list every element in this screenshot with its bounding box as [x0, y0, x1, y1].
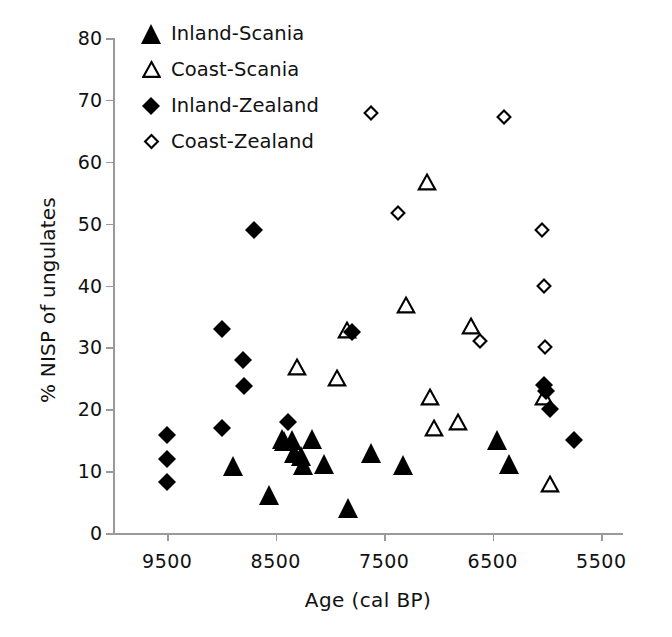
x-axis-tick: [276, 533, 278, 541]
legend-item-label: Inland-Zealand: [171, 94, 319, 117]
data-point-inland-zealand: [541, 400, 559, 418]
data-point-inland-scania: [361, 443, 381, 463]
x-axis-tick: [167, 533, 169, 541]
data-point-inland-zealand: [213, 419, 231, 437]
y-axis-tick-label: 40: [78, 275, 102, 297]
data-point-inland-zealand: [234, 351, 252, 369]
data-point-coast-zealand: [535, 277, 552, 294]
y-axis-tick-label: 60: [78, 151, 102, 173]
open-triangle-icon: [140, 59, 162, 81]
data-point-coast-scania: [425, 418, 444, 437]
open-diamond-icon: [140, 131, 162, 153]
x-axis-tick: [493, 533, 495, 541]
y-axis-line: [113, 38, 115, 533]
x-axis-line: [113, 533, 623, 535]
data-point-inland-scania: [499, 454, 519, 474]
legend-item: Inland-Scania: [140, 22, 319, 45]
x-axis-tick-label: 5500: [576, 550, 626, 572]
data-point-coast-scania: [449, 412, 468, 431]
y-axis-tick: [106, 347, 113, 349]
data-point-coast-scania: [417, 173, 436, 192]
y-axis-tick: [106, 409, 113, 411]
data-point-inland-zealand: [537, 382, 555, 400]
x-axis-tick: [384, 533, 386, 541]
y-axis-tick-label: 20: [78, 398, 102, 420]
data-point-coast-zealand: [495, 108, 512, 125]
scatter-chart-figure: % NISP of ungulates Age (cal BP) 0102030…: [0, 0, 672, 637]
data-point-inland-zealand: [279, 413, 297, 431]
data-point-coast-zealand: [533, 221, 550, 238]
legend-item-label: Coast-Scania: [171, 58, 299, 81]
y-axis-tick: [106, 100, 113, 102]
y-axis-tick: [106, 471, 113, 473]
data-point-coast-scania: [288, 358, 307, 377]
legend-item-label: Inland-Scania: [171, 22, 304, 45]
data-point-inland-scania: [302, 429, 322, 449]
x-axis-tick: [601, 533, 603, 541]
data-point-inland-scania: [259, 485, 279, 505]
x-axis-tick-label: 8500: [251, 550, 301, 572]
data-point-inland-zealand: [158, 473, 176, 491]
legend-item: Inland-Zealand: [140, 94, 319, 117]
x-axis-tick-label: 6500: [468, 550, 518, 572]
y-axis-tick-label: 0: [90, 522, 102, 544]
x-axis-label: Age (cal BP): [113, 588, 623, 612]
x-axis-tick-label: 7500: [359, 550, 409, 572]
data-point-coast-scania: [420, 387, 439, 406]
data-point-inland-zealand: [245, 221, 263, 239]
data-point-coast-scania: [396, 295, 415, 314]
data-point-inland-zealand: [235, 377, 253, 395]
data-point-inland-scania: [314, 454, 334, 474]
y-axis-tick: [106, 38, 113, 40]
data-point-inland-scania: [338, 498, 358, 518]
data-point-coast-zealand: [363, 105, 380, 122]
data-point-coast-zealand: [536, 339, 553, 356]
legend-item: Coast-Zealand: [140, 130, 319, 153]
y-axis-tick: [106, 533, 113, 535]
data-point-inland-zealand: [158, 426, 176, 444]
legend-item-label: Coast-Zealand: [171, 130, 314, 153]
y-axis-tick-label: 70: [78, 89, 102, 111]
legend-item: Coast-Scania: [140, 58, 319, 81]
data-point-inland-scania: [293, 455, 313, 475]
y-axis-tick-label: 80: [78, 27, 102, 49]
x-axis-tick-label: 9500: [142, 550, 192, 572]
data-point-inland-scania: [223, 456, 243, 476]
y-axis-tick: [106, 162, 113, 164]
y-axis-tick: [106, 224, 113, 226]
data-point-inland-scania: [487, 430, 507, 450]
data-point-inland-zealand: [158, 450, 176, 468]
y-axis-label: % NISP of ungulates: [36, 160, 60, 440]
y-axis-tick-label: 30: [78, 336, 102, 358]
y-axis-tick-label: 10: [78, 460, 102, 482]
data-point-inland-scania: [393, 455, 413, 475]
filled-triangle-icon: [140, 23, 162, 45]
data-point-coast-scania: [327, 369, 346, 388]
data-point-coast-zealand: [471, 333, 488, 350]
data-point-inland-zealand: [213, 320, 231, 338]
data-point-coast-scania: [541, 474, 560, 493]
data-point-coast-zealand: [390, 205, 407, 222]
filled-diamond-icon: [140, 95, 162, 117]
data-point-inland-zealand: [565, 431, 583, 449]
y-axis-tick: [106, 286, 113, 288]
y-axis-tick-label: 50: [78, 213, 102, 235]
data-point-inland-zealand: [343, 323, 361, 341]
chart-legend: Inland-Scania Coast-Scania Inland-Zealan…: [140, 22, 319, 153]
